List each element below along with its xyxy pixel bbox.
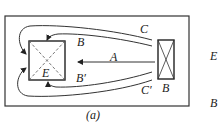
label-cprime: C′	[141, 83, 152, 97]
label-c: C	[140, 22, 149, 36]
side-label-e: E	[209, 49, 218, 63]
caption: (a)	[86, 108, 100, 122]
beam-c-arrow	[19, 26, 152, 54]
label-bprime: B′	[76, 71, 86, 85]
label-source-b: B	[162, 81, 170, 95]
diagram: C B A B′ C′ E B (a) E B	[0, 0, 221, 122]
label-b: B	[77, 35, 85, 49]
label-a: A	[109, 50, 118, 64]
label-e: E	[41, 66, 50, 80]
side-label-b: B	[210, 96, 218, 110]
b-box	[158, 40, 174, 79]
